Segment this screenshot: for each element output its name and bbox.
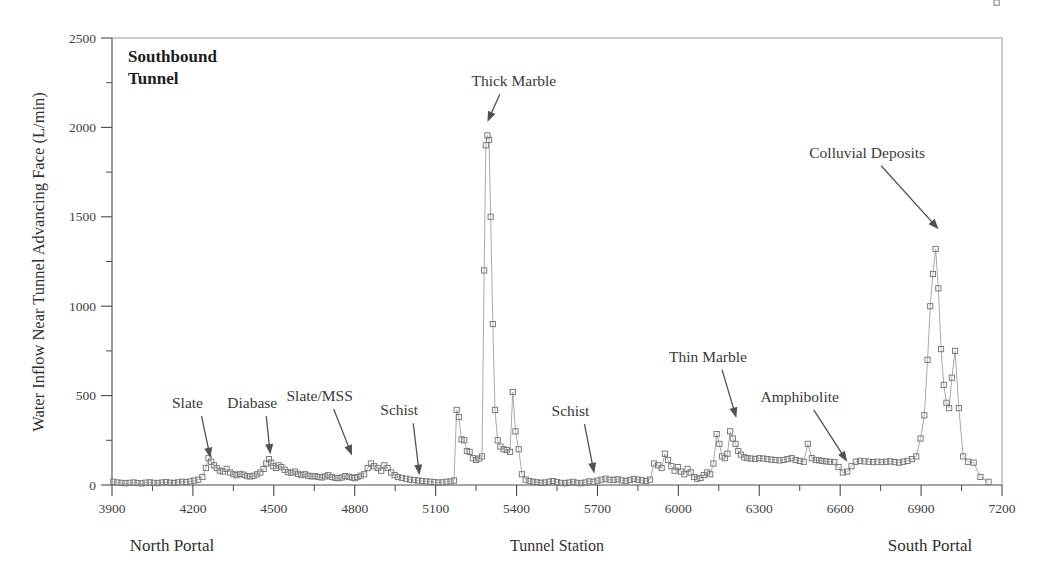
data-point-marker <box>708 472 713 477</box>
data-point-marker <box>801 459 806 464</box>
data-point-marker <box>938 347 943 352</box>
data-point-marker <box>949 375 954 380</box>
plot-title-line-2: Tunnel <box>128 69 179 88</box>
x-tick-label: 4800 <box>341 501 368 516</box>
data-point-marker <box>483 143 488 148</box>
data-point-marker <box>918 436 923 441</box>
x-tick-label: 4200 <box>179 501 206 516</box>
data-point-marker <box>730 436 735 441</box>
y-tick-label: 0 <box>89 478 96 493</box>
data-point-marker <box>492 407 497 412</box>
x-axis-title: Tunnel Station <box>510 537 604 554</box>
north-portal-label: North Portal <box>130 536 215 555</box>
x-tick-label: 6900 <box>908 501 935 516</box>
x-tick-label: 5100 <box>422 501 449 516</box>
data-point-marker <box>836 465 841 470</box>
data-point-marker <box>733 441 738 446</box>
data-point-marker <box>362 472 367 477</box>
data-point-marker <box>488 214 493 219</box>
data-point-marker <box>666 457 671 462</box>
plot-title-line-1: Southbound <box>128 47 217 66</box>
y-tick-label: 1500 <box>69 209 96 224</box>
data-point-marker <box>941 382 946 387</box>
data-point-marker <box>510 389 515 394</box>
annotation-label: Schist <box>380 401 419 418</box>
data-point-marker <box>682 472 687 477</box>
x-tick-label: 4500 <box>260 501 287 516</box>
data-point-marker <box>451 478 456 483</box>
data-point-marker <box>965 459 970 464</box>
x-tick-label: 6000 <box>665 501 692 516</box>
data-point-marker <box>947 406 952 411</box>
data-point-marker <box>922 413 927 418</box>
data-point-marker <box>717 441 722 446</box>
annotation-label: Thin Marble <box>669 348 747 365</box>
annotation-label: Amphibolite <box>761 388 839 405</box>
x-tick-label: 6300 <box>746 501 773 516</box>
data-point-marker <box>662 451 667 456</box>
water-inflow-line-chart: 3900420045004800510054005700600063006600… <box>0 0 1052 583</box>
data-point-marker <box>462 438 467 443</box>
x-tick-label: 3900 <box>99 501 126 516</box>
data-point-marker <box>725 451 730 456</box>
x-tick-label: 5400 <box>503 501 530 516</box>
data-point-marker <box>805 441 810 446</box>
data-point-marker <box>516 447 521 452</box>
y-tick-label: 1000 <box>69 299 96 314</box>
y-axis-title: Water Inflow Near Tunnel Advancing Face … <box>29 92 48 432</box>
data-point-marker <box>379 468 384 473</box>
chart-figure: 3900420045004800510054005700600063006600… <box>0 0 1052 583</box>
data-point-marker <box>507 449 512 454</box>
data-point-marker <box>495 438 500 443</box>
data-point-marker <box>845 469 850 474</box>
annotation-label: Slate <box>172 394 203 411</box>
data-point-marker <box>519 472 524 477</box>
data-point-marker <box>203 465 208 470</box>
y-tick-label: 2500 <box>69 31 96 46</box>
data-point-marker <box>832 460 837 465</box>
data-point-marker <box>961 454 966 459</box>
south-portal-label: South Portal <box>888 536 973 555</box>
data-point-marker <box>914 454 919 459</box>
annotation-label: Slate/MSS <box>287 387 353 404</box>
x-tick-label: 6600 <box>827 501 854 516</box>
data-point-marker <box>647 477 652 482</box>
data-point-marker <box>978 474 983 479</box>
data-point-marker <box>956 406 961 411</box>
x-tick-label: 5700 <box>584 501 611 516</box>
data-point-marker <box>714 431 719 436</box>
annotation-label: Diabase <box>227 394 277 411</box>
data-point-marker <box>994 0 999 5</box>
data-point-marker <box>659 465 664 470</box>
y-tick-label: 2000 <box>69 120 96 135</box>
data-point-marker <box>944 400 949 405</box>
y-tick-label: 500 <box>76 388 97 403</box>
data-point-marker <box>490 321 495 326</box>
data-point-marker <box>454 407 459 412</box>
annotation-label: Schist <box>552 402 591 419</box>
data-point-marker <box>986 479 991 484</box>
data-point-marker <box>728 429 733 434</box>
annotation-label: Thick Marble <box>471 72 556 89</box>
data-point-marker <box>486 137 491 142</box>
data-point-marker <box>200 474 205 479</box>
data-point-marker <box>928 304 933 309</box>
data-point-marker <box>971 460 976 465</box>
data-point-marker <box>456 414 461 419</box>
data-point-marker <box>261 466 266 471</box>
data-point-marker <box>933 246 938 251</box>
data-point-marker <box>936 286 941 291</box>
data-point-marker <box>467 449 472 454</box>
data-point-marker <box>711 461 716 466</box>
data-point-marker <box>952 348 957 353</box>
data-point-marker <box>930 271 935 276</box>
data-point-marker <box>479 454 484 459</box>
data-point-marker <box>925 357 930 362</box>
x-tick-label: 7200 <box>989 501 1016 516</box>
annotation-label: Colluvial Deposits <box>809 144 925 161</box>
data-point-marker <box>482 268 487 273</box>
data-point-marker <box>513 429 518 434</box>
